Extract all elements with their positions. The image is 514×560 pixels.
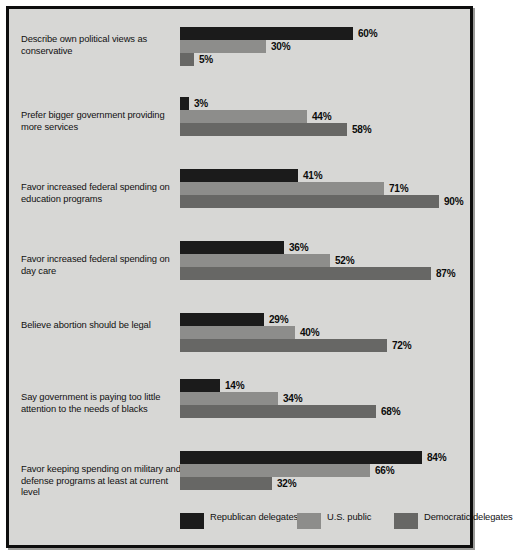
bar-group-label: Favor increased federal spending on day … (21, 253, 181, 276)
bar (180, 464, 370, 477)
bar (180, 405, 376, 418)
bar-row: 40% (180, 326, 411, 339)
bar-row: 90% (180, 195, 463, 208)
bar-value-label: 66% (370, 464, 394, 477)
bar-value-label: 32% (272, 477, 296, 490)
chart-figure: Describe own political views as conserva… (6, 6, 473, 548)
bar-row: 32% (180, 477, 446, 490)
chart-legend: Republican delegatesU.S. publicDemocrati… (9, 505, 470, 549)
bar-value-label: 14% (220, 379, 244, 392)
bar (180, 40, 266, 53)
bar-group-label: Prefer bigger government providing more … (21, 109, 181, 132)
bar-row: 72% (180, 339, 411, 352)
bar-value-label: 36% (284, 241, 308, 254)
bar (180, 110, 307, 123)
bar-value-label: 84% (422, 451, 446, 464)
bar-row: 5% (180, 53, 377, 66)
bar-row: 36% (180, 241, 455, 254)
bar (180, 254, 330, 267)
legend-swatch (297, 513, 321, 529)
bar-group-label: Believe abortion should be legal (21, 319, 181, 331)
bar-group-label: Describe own political views as conserva… (21, 33, 181, 56)
chart-plot-area: Describe own political views as conserva… (9, 9, 470, 545)
bar (180, 267, 431, 280)
bar (180, 169, 298, 182)
bar (180, 379, 220, 392)
bar-value-label: 44% (307, 110, 331, 123)
bar-value-label: 68% (376, 405, 400, 418)
bar-group-bars: 14%34%68% (180, 379, 400, 418)
bar (180, 313, 264, 326)
legend-label: Democratic delegates (424, 511, 514, 522)
bar-row: 71% (180, 182, 463, 195)
bar-value-label: 34% (278, 392, 302, 405)
bar-group-bars: 29%40%72% (180, 313, 411, 352)
bar-value-label: 5% (194, 53, 213, 66)
bar-value-label: 71% (384, 182, 408, 195)
bar-group-bars: 41%71%90% (180, 169, 463, 208)
bar-group-label: Favor increased federal spending on educ… (21, 181, 181, 204)
bar-group-bars: 60%30%5% (180, 27, 377, 66)
bar (180, 53, 194, 66)
bar-group-bars: 36%52%87% (180, 241, 455, 280)
bar-value-label: 30% (266, 40, 290, 53)
bar (180, 27, 353, 40)
legend-swatch (394, 513, 418, 529)
bar-value-label: 90% (439, 195, 463, 208)
bar-value-label: 87% (431, 267, 455, 280)
bar-row: 68% (180, 405, 400, 418)
bar (180, 339, 387, 352)
bar (180, 182, 384, 195)
bar-row: 29% (180, 313, 411, 326)
legend-label: Republican delegates (210, 511, 300, 522)
bar-row: 87% (180, 267, 455, 280)
legend-swatch (180, 513, 204, 529)
bar-group-bars: 3%44%58% (180, 97, 371, 136)
bar-group-label: Say government is paying too little atte… (21, 391, 181, 414)
bar-row: 3% (180, 97, 371, 110)
bar-row: 14% (180, 379, 400, 392)
bar-value-label: 72% (387, 339, 411, 352)
bar-row: 84% (180, 451, 446, 464)
bar-row: 52% (180, 254, 455, 267)
bar-group-label: Favor keeping spending on military and d… (21, 463, 181, 498)
bar (180, 451, 422, 464)
bar-row: 41% (180, 169, 463, 182)
bar-value-label: 3% (189, 97, 208, 110)
bar-value-label: 41% (298, 169, 322, 182)
bar-value-label: 52% (330, 254, 354, 267)
bar (180, 97, 189, 110)
bar-value-label: 40% (295, 326, 319, 339)
bar-row: 34% (180, 392, 400, 405)
bar-value-label: 58% (347, 123, 371, 136)
bar-value-label: 60% (353, 27, 377, 40)
bar-row: 60% (180, 27, 377, 40)
bar (180, 195, 439, 208)
bar-row: 30% (180, 40, 377, 53)
bar-row: 66% (180, 464, 446, 477)
bar (180, 241, 284, 254)
bar (180, 326, 295, 339)
bar-value-label: 29% (264, 313, 288, 326)
bar (180, 123, 347, 136)
bar-group-bars: 84%66%32% (180, 451, 446, 490)
bar (180, 477, 272, 490)
bar (180, 392, 278, 405)
bar-row: 44% (180, 110, 371, 123)
bar-row: 58% (180, 123, 371, 136)
